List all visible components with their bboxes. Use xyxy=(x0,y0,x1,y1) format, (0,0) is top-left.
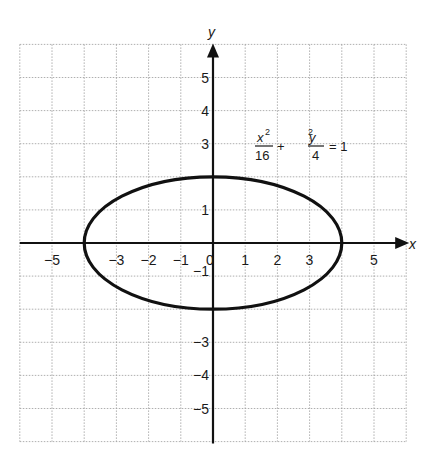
x-tick-label: 1 xyxy=(241,252,249,268)
x-tick-label: −5 xyxy=(44,252,60,268)
eq-frac2-denominator: 4 xyxy=(312,148,319,163)
ellipse-graph: −5−3−2−101235 5431−1−3−4−5 x y x 2 16 + … xyxy=(0,0,439,449)
x-tick-label: 3 xyxy=(306,252,314,268)
eq-equals: = 1 xyxy=(329,139,347,154)
y-tick-label: −4 xyxy=(193,367,209,383)
x-tick-label: −3 xyxy=(108,252,124,268)
eq-frac1-exponent: 2 xyxy=(265,127,270,137)
x-axis-arrow-icon xyxy=(395,237,409,249)
eq-plus: + xyxy=(277,139,285,154)
eq-frac1-numerator: x xyxy=(256,130,264,145)
y-axis-arrow-icon xyxy=(207,43,219,57)
y-tick-label: −5 xyxy=(193,401,209,417)
y-tick-label: 1 xyxy=(201,202,209,218)
x-tick-label: 5 xyxy=(370,252,378,268)
x-tick-labels: −5−3−2−101235 xyxy=(44,252,378,268)
eq-frac1-denominator: 16 xyxy=(255,148,269,163)
y-tick-label: 5 xyxy=(201,70,209,86)
x-axis-label: x xyxy=(408,236,417,252)
y-axis-label: y xyxy=(207,24,216,40)
axes xyxy=(20,43,409,443)
x-tick-label: −1 xyxy=(173,252,189,268)
x-tick-label: −2 xyxy=(141,252,157,268)
y-tick-label: 3 xyxy=(201,136,209,152)
x-tick-label: 2 xyxy=(273,252,281,268)
equation-label: x 2 16 + y 2 4 = 1 xyxy=(255,127,347,163)
y-tick-label: −3 xyxy=(193,334,209,350)
y-tick-label: 4 xyxy=(201,103,209,119)
y-tick-label: −1 xyxy=(193,263,209,279)
eq-frac2-exponent: 2 xyxy=(308,127,313,137)
